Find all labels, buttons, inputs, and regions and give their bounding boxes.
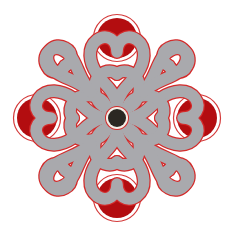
center-disc	[105, 106, 129, 130]
knot-ornament	[0, 0, 234, 237]
center-dot-icon	[108, 109, 126, 127]
